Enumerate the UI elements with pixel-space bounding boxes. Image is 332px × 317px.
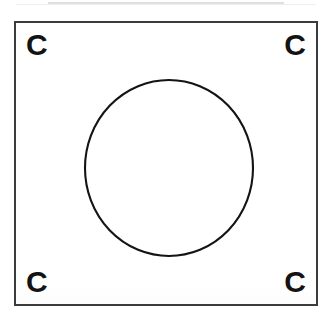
- center-circle: [85, 80, 253, 256]
- registration-frame: C C C C: [14, 21, 318, 306]
- scan-page: C C C C: [0, 0, 332, 317]
- scan-line-artifact-secondary: [16, 4, 316, 5]
- center-circle-layer: [16, 23, 320, 308]
